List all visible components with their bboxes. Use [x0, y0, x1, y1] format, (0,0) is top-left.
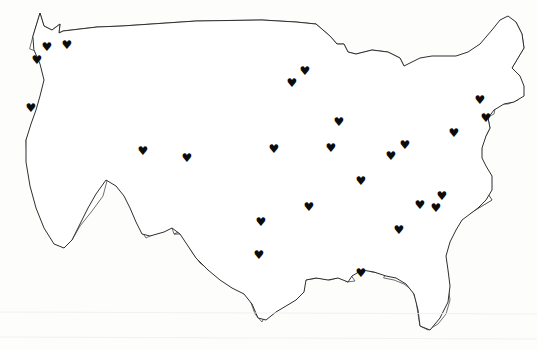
heart-icon: ♥: [138, 146, 149, 157]
heart-icon: ♥: [356, 176, 367, 187]
heart-icon: ♥: [356, 268, 367, 279]
heart-icon: ♥: [415, 200, 426, 211]
heart-icon: ♥: [386, 151, 397, 162]
heart-icon: ♥: [431, 203, 442, 214]
heart-icon: ♥: [481, 113, 492, 124]
heart-icon: ♥: [32, 55, 43, 66]
heart-icon: ♥: [62, 40, 73, 51]
heart-icon: ♥: [437, 191, 448, 202]
us-heart-map: ♥♥♥♥♥♥♥♥♥♥♥♥♥♥♥♥♥♥♥♥♥♥♥♥♥: [0, 0, 537, 350]
heart-icon: ♥: [182, 153, 193, 164]
heart-icon: ♥: [449, 128, 460, 139]
heart-icon: ♥: [287, 78, 298, 89]
heart-icon: ♥: [256, 217, 267, 228]
heart-icon: ♥: [300, 66, 311, 77]
heart-icon: ♥: [475, 95, 486, 106]
heart-icon: ♥: [394, 225, 405, 236]
heart-icon: ♥: [269, 144, 280, 155]
heart-icon: ♥: [42, 42, 53, 53]
heart-icon: ♥: [304, 202, 315, 213]
heart-icon: ♥: [254, 250, 265, 261]
heart-marker-layer: ♥♥♥♥♥♥♥♥♥♥♥♥♥♥♥♥♥♥♥♥♥♥♥♥♥: [0, 0, 537, 350]
heart-icon: ♥: [326, 143, 337, 154]
heart-icon: ♥: [400, 140, 411, 151]
heart-icon: ♥: [26, 103, 37, 114]
heart-icon: ♥: [334, 117, 345, 128]
